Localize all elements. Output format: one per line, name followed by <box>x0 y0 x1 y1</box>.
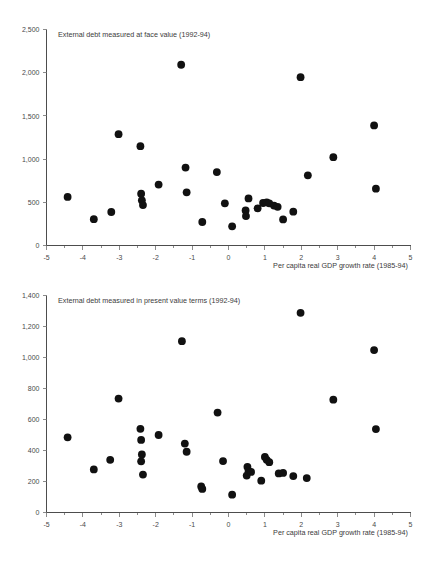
data-point <box>370 346 378 354</box>
data-points-present-value <box>64 309 380 499</box>
data-point <box>106 456 114 464</box>
y-tick-label: 1,000 <box>22 354 40 361</box>
data-point <box>289 208 297 216</box>
x-tick-label: -1 <box>189 254 195 261</box>
data-point <box>64 433 72 441</box>
data-point <box>155 431 163 439</box>
data-point <box>138 450 146 458</box>
x-tick-label: 0 <box>227 254 231 261</box>
scatter-plot-face-value: 05001,0001,5002,0002,500 -5-4-3-2-101234… <box>0 0 427 287</box>
x-tick-label: 5 <box>409 254 413 261</box>
data-point <box>107 208 115 216</box>
y-tick-label: 400 <box>28 447 40 454</box>
y-tick-label: 1,200 <box>22 323 40 330</box>
data-point <box>279 216 287 224</box>
data-point <box>214 409 222 417</box>
x-tick-label: 4 <box>372 521 376 528</box>
data-point <box>155 181 163 189</box>
x-tick-label: -2 <box>153 254 159 261</box>
y-tick-marks-face-value <box>43 30 47 246</box>
data-point <box>221 199 229 207</box>
data-point <box>137 457 145 465</box>
y-tick-label: 2,000 <box>22 69 40 76</box>
data-point <box>370 122 378 130</box>
data-point <box>115 130 123 138</box>
data-point <box>137 436 145 444</box>
y-tick-labels-face-value: 05001,0001,5002,0002,500 <box>22 26 40 249</box>
x-tick-label: 2 <box>299 254 303 261</box>
data-point <box>139 471 147 479</box>
data-point <box>178 337 186 345</box>
data-point <box>279 469 287 477</box>
data-point <box>304 171 312 179</box>
data-point <box>213 168 221 176</box>
chart-present-value: 02004006008001,0001,2001,400 -5-4-3-2-10… <box>0 287 427 574</box>
data-point <box>228 222 236 230</box>
x-tick-label: -3 <box>116 254 122 261</box>
data-point <box>274 203 282 211</box>
data-point <box>177 61 185 69</box>
x-tick-label: -5 <box>43 521 49 528</box>
x-tick-label: 4 <box>372 254 376 261</box>
y-tick-labels-present-value: 02004006008001,0001,2001,400 <box>22 292 40 516</box>
data-point <box>198 485 206 493</box>
x-tick-label: -5 <box>43 254 49 261</box>
data-point <box>372 425 380 433</box>
y-tick-label: 800 <box>28 385 40 392</box>
y-tick-label: 0 <box>36 509 40 516</box>
data-point <box>297 309 305 317</box>
x-tick-label: 5 <box>409 521 413 528</box>
x-tick-label: 0 <box>227 521 231 528</box>
chart-title-present-value: External debt measured in present value … <box>58 296 240 305</box>
x-tick-label: 3 <box>336 254 340 261</box>
data-point <box>329 396 337 404</box>
x-tick-label: 1 <box>263 254 267 261</box>
chart-title-face-value: External debt measured at face value (19… <box>58 30 210 39</box>
data-point <box>115 395 123 403</box>
y-tick-label: 200 <box>28 478 40 485</box>
x-tick-label: -3 <box>116 521 122 528</box>
data-point <box>329 153 337 161</box>
data-point <box>257 477 265 485</box>
y-tick-label: 1,000 <box>22 156 40 163</box>
y-tick-label: 1,500 <box>22 113 40 120</box>
chart-face-value: 05001,0001,5002,0002,500 -5-4-3-2-101234… <box>0 0 427 287</box>
data-point <box>219 457 227 465</box>
data-point <box>245 195 253 203</box>
y-tick-label: 0 <box>36 242 40 249</box>
figure-page: 05001,0001,5002,0002,500 -5-4-3-2-101234… <box>0 0 427 574</box>
x-tick-marks-face-value <box>47 246 411 250</box>
x-tick-label: 1 <box>263 521 267 528</box>
data-point <box>182 164 190 172</box>
data-points-face-value <box>64 61 380 230</box>
x-tick-label: -1 <box>189 521 195 528</box>
x-tick-labels-face-value: -5-4-3-2-1012345 <box>43 254 412 261</box>
x-tick-label: 2 <box>299 521 303 528</box>
x-tick-label: -4 <box>80 521 86 528</box>
data-point <box>181 440 189 448</box>
data-point <box>183 448 191 456</box>
scatter-plot-present-value: 02004006008001,0001,2001,400 -5-4-3-2-10… <box>0 287 427 574</box>
x-tick-labels-present-value: -5-4-3-2-1012345 <box>43 521 412 528</box>
data-point <box>242 212 250 220</box>
x-tick-marks-present-value <box>47 513 411 517</box>
data-point <box>137 190 145 198</box>
data-point <box>90 215 98 223</box>
data-point <box>64 193 72 201</box>
data-point <box>183 188 191 196</box>
data-point <box>303 474 311 482</box>
data-point <box>265 458 273 466</box>
y-tick-label: 500 <box>28 199 40 206</box>
data-point <box>372 185 380 193</box>
data-point <box>228 491 236 499</box>
data-point <box>198 218 206 226</box>
plot-axes-present-value <box>47 296 411 513</box>
data-point <box>90 466 98 474</box>
x-tick-label: 3 <box>336 521 340 528</box>
y-tick-label: 2,500 <box>22 26 40 33</box>
x-tick-label: -2 <box>153 521 159 528</box>
data-point <box>289 472 297 480</box>
x-tick-label: -4 <box>80 254 86 261</box>
data-point <box>247 468 255 476</box>
data-point <box>137 425 145 433</box>
